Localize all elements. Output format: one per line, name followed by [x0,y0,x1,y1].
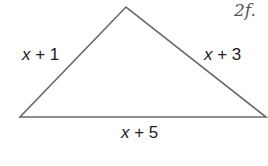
handwritten-mark: 2f. [234,0,256,20]
label-left-side: x + 1 [22,46,59,63]
label-bottom-side: x + 5 [121,124,158,141]
label-right-side: x + 3 [204,46,241,63]
